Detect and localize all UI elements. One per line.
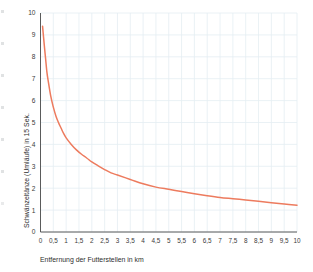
- y-axis-title: Schwänzeltänze (Umläufe) in 15 Sek.: [23, 113, 31, 228]
- y-tick-label: 1: [32, 207, 36, 214]
- x-tick-label: 4,5: [151, 237, 160, 244]
- y-tick-label: 4: [32, 141, 36, 148]
- chart-canvas: 012345678910 00,511,522,533,544,555,566,…: [0, 0, 313, 272]
- x-axis-tick-labels: 00,511,522,533,544,555,566,577,588,599,5…: [39, 237, 301, 244]
- chart-figure: 012345678910 00,511,522,533,544,555,566,…: [0, 0, 313, 272]
- x-tick-label: 6: [193, 237, 197, 244]
- x-tick-label: 10: [293, 237, 301, 244]
- y-tick-label: 6: [32, 97, 36, 104]
- x-tick-label: 9: [270, 237, 274, 244]
- x-tick-label: 3: [116, 237, 120, 244]
- grid-lines: [41, 13, 298, 232]
- x-tick-label: 7,5: [228, 237, 237, 244]
- x-tick-label: 3,5: [126, 237, 135, 244]
- x-tick-label: 1: [64, 237, 68, 244]
- y-tick-label: 2: [32, 185, 36, 192]
- x-tick-label: 2,5: [100, 237, 109, 244]
- y-tick-label: 5: [32, 119, 36, 126]
- y-tick-label: 3: [32, 163, 36, 170]
- y-tick-label: 10: [28, 9, 36, 16]
- x-tick-label: 6,5: [203, 237, 212, 244]
- x-tick-label: 5: [167, 237, 171, 244]
- x-tick-label: 8: [244, 237, 248, 244]
- y-tick-label: 9: [32, 31, 36, 38]
- x-tick-label: 0,5: [49, 237, 58, 244]
- x-axis-title: Entfernung der Futterstellen in km: [40, 256, 144, 264]
- x-tick-label: 2: [90, 237, 94, 244]
- x-tick-label: 0: [39, 237, 43, 244]
- y-tick-label: 0: [32, 228, 36, 235]
- x-tick-label: 8,5: [254, 237, 263, 244]
- x-tick-label: 7: [218, 237, 222, 244]
- y-tick-label: 8: [32, 53, 36, 60]
- x-tick-label: 5,5: [177, 237, 186, 244]
- y-tick-label: 7: [32, 75, 36, 82]
- x-tick-label: 1,5: [75, 237, 84, 244]
- x-tick-label: 4: [141, 237, 145, 244]
- x-tick-label: 9,5: [280, 237, 289, 244]
